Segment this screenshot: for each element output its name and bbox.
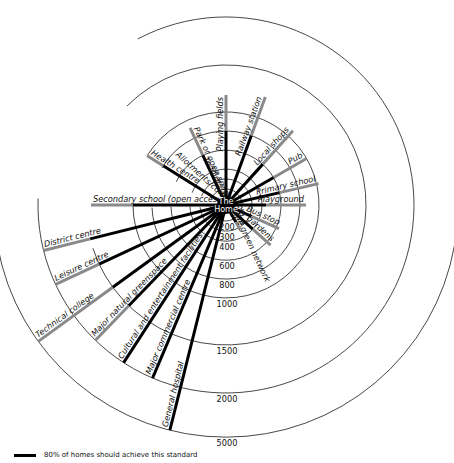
ring-label: 1000 xyxy=(217,299,238,309)
ring-label: 1500 xyxy=(217,346,238,356)
ring-label: 800 xyxy=(219,280,235,290)
legend-swatch xyxy=(14,454,36,457)
ring-label: 600 xyxy=(219,261,235,271)
ring-label: 5000 xyxy=(217,438,238,448)
destination-labels: PlaygroundBus stopAllotments/community g… xyxy=(33,95,317,428)
destination-label: Leisure centre xyxy=(53,249,110,283)
destination-label: Technical college xyxy=(33,290,95,339)
destination-label: Secondary school (open access) xyxy=(93,194,225,204)
destination-label: Playground xyxy=(258,194,305,204)
legend: 80% of homes should achieve this standar… xyxy=(14,451,197,459)
ring-label: 400 xyxy=(219,242,235,252)
destination-label: Pub xyxy=(286,150,304,166)
home-label-line2: Home xyxy=(214,205,238,214)
accessibility-radial-diagram: 2003004006008001000150020005000 Playgrou… xyxy=(0,0,454,463)
ring-labels: 2003004006008001000150020005000 xyxy=(217,222,238,448)
ring-label: 300 xyxy=(219,232,235,242)
destination-label: Playing fields xyxy=(215,96,225,151)
legend-text: 80% of homes should achieve this standar… xyxy=(44,451,197,459)
ring-label: 200 xyxy=(219,222,235,232)
ring-label: 2000 xyxy=(217,394,238,404)
destination-label: District centre xyxy=(43,225,102,249)
